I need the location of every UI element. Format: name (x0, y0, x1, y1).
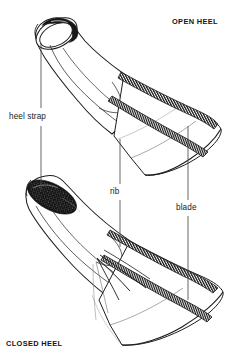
callout-label-heel-strap: heel strap (9, 112, 46, 121)
callout-label-rib: rib (110, 187, 119, 196)
open-heel-blade (114, 74, 221, 175)
closed-heel-heading: CLOSED HEEL (6, 339, 62, 348)
open-heel-heading: OPEN HEEL (172, 17, 218, 26)
open-heel-fin-icon (31, 11, 221, 175)
callout-label-blade: blade (176, 203, 197, 212)
swim-fin-diagram (0, 0, 233, 360)
closed-heel-fin-icon (22, 173, 223, 345)
